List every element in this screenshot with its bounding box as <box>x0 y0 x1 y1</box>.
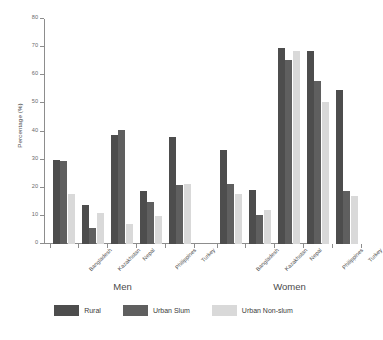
y-tick: 30 <box>40 159 44 160</box>
bar <box>89 228 96 244</box>
bar <box>278 48 285 244</box>
bar <box>314 81 321 244</box>
y-tick-label: 40 <box>32 127 38 133</box>
legend-item: Urban Non-slum <box>212 305 293 316</box>
bar <box>68 194 75 244</box>
x-axis-label: Turkey <box>367 247 383 263</box>
legend-label: Urban Non-slum <box>242 307 293 314</box>
bar <box>176 185 183 244</box>
x-axis-label: Turkey <box>200 247 216 263</box>
y-axis-title: Percentage (%) <box>16 76 23 176</box>
bar <box>285 60 292 244</box>
x-axis-label: Nepal <box>141 247 156 262</box>
y-tick-label: 70 <box>32 42 38 48</box>
bar <box>53 160 60 244</box>
legend-item: Urban Slum <box>123 305 190 316</box>
legend-swatch <box>54 305 79 316</box>
bar <box>60 161 67 244</box>
bar <box>97 213 104 244</box>
bar <box>118 130 125 244</box>
bar <box>155 216 162 244</box>
legend-item: Rural <box>54 305 101 316</box>
y-tick-label: 30 <box>32 155 38 161</box>
x-tick <box>78 244 79 248</box>
bar <box>184 184 191 244</box>
bar <box>249 190 256 244</box>
x-axis-label: Nepal <box>308 247 323 262</box>
y-tick: 20 <box>40 187 44 188</box>
x-tick <box>217 244 218 248</box>
legend-swatch <box>123 305 148 316</box>
bar <box>336 90 343 244</box>
y-tick-label: 10 <box>32 211 38 217</box>
y-tick-label: 60 <box>32 70 38 76</box>
x-axis-label: Bangladesh <box>88 247 113 272</box>
group-caption: Men <box>83 281 163 292</box>
bar <box>307 51 314 244</box>
group-caption: Women <box>250 281 330 292</box>
bar <box>220 150 227 244</box>
bar <box>343 191 350 244</box>
y-tick: 50 <box>40 102 44 103</box>
legend-swatch <box>212 305 237 316</box>
y-tick-label: 50 <box>32 98 38 104</box>
plot-area: 01020304050607080 <box>44 19 328 244</box>
x-tick <box>165 244 166 248</box>
bar <box>126 224 133 244</box>
y-tick: 40 <box>40 131 44 132</box>
x-tick <box>332 244 333 248</box>
y-tick-label: 0 <box>35 239 38 245</box>
bar <box>351 196 358 244</box>
legend-label: Urban Slum <box>153 307 190 314</box>
y-tick: 10 <box>40 215 44 216</box>
chart-legend: RuralUrban SlumUrban Non-slum <box>0 305 347 316</box>
bar <box>322 102 329 244</box>
bar <box>235 194 242 244</box>
y-tick: 60 <box>40 74 44 75</box>
bar <box>264 210 271 244</box>
x-axis-label: Philippines <box>341 247 364 270</box>
y-tick: 0 <box>40 243 44 244</box>
x-axis-label: Kazakhstan <box>284 247 309 272</box>
y-axis-line <box>44 19 45 244</box>
bar <box>111 135 118 244</box>
x-tick <box>50 244 51 248</box>
x-axis-label: Bangladesh <box>255 247 280 272</box>
x-axis-label: Philippines <box>174 247 197 270</box>
bar <box>293 51 300 244</box>
bar <box>169 137 176 244</box>
bar <box>82 205 89 244</box>
y-tick: 80 <box>40 18 44 19</box>
bar <box>147 202 154 244</box>
y-tick-label: 80 <box>32 14 38 20</box>
y-tick-label: 20 <box>32 183 38 189</box>
legend-label: Rural <box>84 307 101 314</box>
y-tick: 70 <box>40 46 44 47</box>
x-tick <box>245 244 246 248</box>
bar <box>140 191 147 244</box>
bar <box>227 184 234 244</box>
x-axis-label: Kazakhstan <box>117 247 142 272</box>
bar <box>256 215 263 244</box>
